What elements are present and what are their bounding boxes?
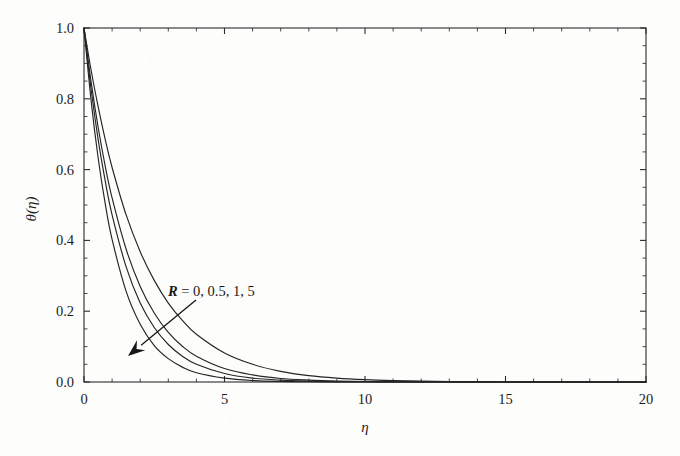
- figure-background: [0, 0, 680, 456]
- y-tick-label: 0.8: [56, 91, 74, 107]
- y-axis-title: θ(η): [23, 197, 40, 222]
- y-tick-label: 0.2: [56, 303, 74, 319]
- y-tick-label: 0.6: [56, 162, 74, 178]
- figure-page: 05101520 0.00.20.40.60.81.0 η θ(η) R = 0…: [0, 0, 680, 456]
- plot-figure: 05101520 0.00.20.40.60.81.0 η θ(η) R = 0…: [0, 0, 680, 456]
- y-tick-label: 0.0: [56, 374, 74, 390]
- annotation-label: R = 0, 0.5, 1, 5: [167, 283, 255, 299]
- x-tick-label: 5: [221, 391, 228, 407]
- x-tick-label: 15: [498, 391, 513, 407]
- y-tick-label: 0.4: [56, 232, 75, 248]
- x-axis-title: η: [361, 419, 368, 435]
- x-tick-label: 20: [639, 391, 654, 407]
- annotation-equals: =: [178, 283, 193, 299]
- x-tick-label: 10: [358, 391, 373, 407]
- y-tick-label: 1.0: [56, 20, 74, 36]
- x-tick-label: 0: [80, 391, 87, 407]
- annotation-values: 0, 0.5, 1, 5: [193, 283, 255, 299]
- annotation-symbol: R: [167, 283, 178, 299]
